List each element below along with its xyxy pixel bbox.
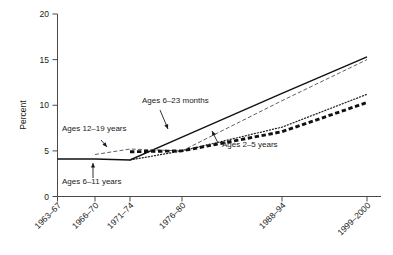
x-axis-tick-labels: 1963–671966–701971–741976–801988–941999–… xyxy=(32,200,372,237)
series-annotation-label: Ages 6–23 months xyxy=(142,96,209,105)
series-annotation-label: Ages 2–5 years xyxy=(222,140,278,149)
x-tick-label: 1971–74 xyxy=(105,200,136,231)
x-axis-ticks xyxy=(58,197,368,202)
x-tick-label: 1988–94 xyxy=(257,200,288,231)
y-axis-title: Percent xyxy=(18,100,28,130)
x-tick-label: 1976–80 xyxy=(157,200,188,231)
series-annotation-label: Ages 6–11 years xyxy=(62,177,121,186)
x-tick-label: 1966–70 xyxy=(70,200,101,231)
chart-container: 05101520 1963–671966–701971–741976–80198… xyxy=(0,0,393,255)
y-tick-label: 0 xyxy=(44,192,49,202)
y-tick-label: 15 xyxy=(40,55,50,65)
y-axis-tick-labels: 05101520 xyxy=(40,9,50,202)
y-tick-label: 5 xyxy=(44,146,49,156)
y-axis-ticks xyxy=(53,14,58,197)
series-annotation-label: Ages 12–19 years xyxy=(62,124,127,133)
line-chart: 05101520 1963–671966–701971–741976–80198… xyxy=(0,0,393,255)
series-annotation-arrowhead xyxy=(91,163,95,168)
x-tick-label: 1963–67 xyxy=(32,200,63,231)
y-tick-label: 20 xyxy=(40,9,50,19)
y-tick-label: 10 xyxy=(40,100,50,110)
x-tick-label: 1999–2000 xyxy=(335,200,372,237)
